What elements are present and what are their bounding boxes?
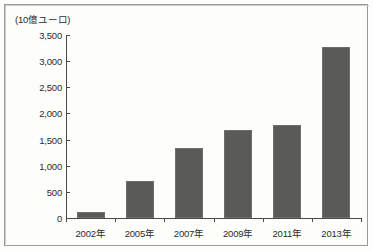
y-axis-tick-label: 2,000 — [39, 108, 62, 119]
y-axis-tick-label: 1,000 — [39, 160, 62, 171]
chart-figure: (10億ユーロ) 05001,0001,5002,0002,5003,0003,… — [0, 0, 373, 251]
plot-area: 05001,0001,5002,0002,5003,0003,5002002年2… — [0, 0, 373, 251]
x-axis-label-2011年: 2011年 — [273, 226, 302, 240]
y-axis-tick — [66, 140, 70, 141]
bar-2013年 — [322, 47, 350, 218]
y-axis-tick-label: 0 — [57, 213, 62, 224]
x-axis-label-2013年: 2013年 — [321, 226, 351, 240]
x-axis-tick — [214, 218, 215, 222]
y-axis-tick-label: 1,500 — [39, 134, 62, 145]
bar-2005年 — [126, 181, 154, 218]
x-axis-tick — [361, 218, 362, 222]
x-axis-tick — [115, 218, 116, 222]
y-axis-tick-label: 3,000 — [39, 56, 62, 67]
bar-2002年 — [77, 212, 105, 218]
y-axis-tick-label: 2,500 — [39, 82, 62, 93]
x-axis-label-2009年: 2009年 — [223, 226, 253, 240]
y-axis-tick-label: 500 — [47, 186, 62, 197]
x-axis-label-2005年: 2005年 — [125, 226, 155, 240]
y-axis-tick — [66, 61, 70, 62]
bar-2011年 — [273, 125, 301, 218]
bar-2009年 — [224, 130, 252, 218]
x-axis-tick — [263, 218, 264, 222]
y-axis-tick — [66, 192, 70, 193]
x-axis-label-2007年: 2007年 — [174, 226, 204, 240]
y-axis-tick-label: 3,500 — [39, 30, 62, 41]
x-axis-tick — [66, 218, 67, 222]
y-axis-tick — [66, 87, 70, 88]
y-axis-tick — [66, 35, 70, 36]
x-axis-label-2002年: 2002年 — [76, 226, 106, 240]
x-axis-tick — [312, 218, 313, 222]
x-axis-tick — [164, 218, 165, 222]
bar-2007年 — [175, 148, 203, 218]
y-axis-tick — [66, 113, 70, 114]
y-axis-tick — [66, 166, 70, 167]
